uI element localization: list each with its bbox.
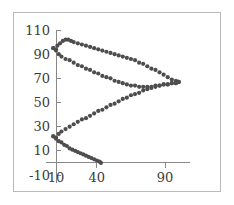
data-point [141, 62, 145, 66]
data-point [76, 120, 80, 124]
y-axis-tick-label: 10 [33, 143, 50, 158]
data-point [112, 102, 116, 106]
data-point [59, 129, 63, 133]
data-point [63, 127, 67, 131]
data-point [149, 86, 153, 90]
data-point [72, 61, 76, 65]
data-point [170, 81, 174, 85]
data-point [108, 51, 112, 55]
data-point [166, 82, 170, 86]
data-point [121, 97, 125, 101]
x-axis-tick-label: 90 [157, 170, 174, 185]
data-point [162, 82, 166, 86]
data-point [153, 85, 157, 89]
data-point [54, 48, 58, 52]
data-series [51, 46, 181, 89]
y-axis-tick-label: 30 [33, 119, 50, 134]
data-point [137, 85, 141, 89]
data-point [153, 68, 157, 72]
data-point [108, 76, 112, 80]
chart-figure: -101030507090110104090 [0, 0, 234, 205]
data-point [68, 58, 72, 62]
data-point [141, 85, 145, 89]
data-point [117, 99, 121, 103]
data-point [96, 109, 100, 113]
data-point [162, 73, 166, 77]
data-point [104, 50, 108, 54]
data-series [51, 134, 103, 165]
data-point [177, 80, 181, 84]
data-point [88, 45, 92, 49]
data-point [137, 61, 141, 65]
data-point [100, 74, 104, 78]
data-point [84, 116, 88, 120]
data-point [100, 48, 104, 52]
data-point [129, 57, 133, 61]
data-point [84, 44, 88, 48]
data-point [166, 75, 170, 79]
data-point [76, 63, 80, 67]
data-point [92, 46, 96, 50]
data-point [80, 117, 84, 121]
data-point [170, 77, 174, 81]
data-point [68, 125, 72, 129]
data-point [76, 41, 80, 45]
data-point [104, 105, 108, 109]
data-point [125, 56, 129, 60]
data-point [84, 67, 88, 71]
data-point [157, 83, 161, 87]
data-point [129, 93, 133, 97]
data-point [125, 96, 129, 100]
data-point [80, 64, 84, 68]
data-point [72, 40, 76, 44]
data-point [96, 47, 100, 51]
data-point [104, 75, 108, 79]
data-point [129, 83, 133, 87]
data-point [63, 57, 67, 61]
data-point [80, 42, 84, 46]
data-point [92, 111, 96, 115]
y-axis-tick-label: 110 [25, 23, 50, 38]
data-point [133, 83, 137, 87]
data-point [92, 70, 96, 74]
data-point [117, 80, 121, 84]
y-axis-tick-label: 50 [33, 95, 50, 110]
data-point [72, 122, 76, 126]
x-axis-tick-label: 10 [48, 170, 65, 185]
data-point [112, 79, 116, 83]
data-point [133, 58, 137, 62]
scatter-plot: -101030507090110104090 [0, 0, 234, 205]
data-point [99, 161, 103, 165]
y-axis-tick-label: 70 [33, 71, 50, 86]
data-point [145, 64, 149, 68]
data-point [96, 71, 100, 75]
data-point [108, 103, 112, 107]
data-series [51, 80, 181, 140]
data-point [133, 92, 137, 96]
data-point [145, 87, 149, 91]
data-point [88, 68, 92, 72]
data-point [117, 53, 121, 57]
data-point [137, 91, 141, 95]
data-point [112, 52, 116, 56]
data-point [141, 88, 145, 92]
data-point [121, 54, 125, 58]
data-point [149, 67, 153, 71]
x-axis-tick-label: 40 [89, 170, 106, 185]
data-point [100, 108, 104, 112]
data-point [121, 81, 125, 85]
data-point [59, 54, 63, 58]
data-point [125, 82, 129, 86]
data-point [88, 114, 92, 118]
y-axis-tick-label: 90 [33, 47, 50, 62]
data-point [157, 70, 161, 74]
